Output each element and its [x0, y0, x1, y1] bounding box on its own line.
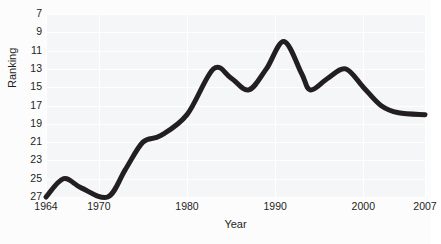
x-axis-title: Year [46, 218, 425, 230]
x-axis-tick-label: 1970 [69, 200, 129, 212]
y-axis-tick-labels: 79111315171921232527 [0, 14, 42, 197]
y-axis-tick-label: 23 [2, 154, 42, 165]
x-axis-tick-label: 1964 [16, 200, 76, 212]
y-axis-title: Ranking [6, 48, 18, 88]
gridline-vertical [425, 14, 426, 197]
y-axis-tick-label: 9 [2, 26, 42, 37]
y-axis-tick-label: 21 [2, 136, 42, 147]
series-ranking-path [46, 41, 425, 197]
y-axis-tick-label: 7 [2, 8, 42, 19]
x-axis-tick-label: 1980 [157, 200, 217, 212]
x-axis-tick-label: 2000 [333, 200, 393, 212]
x-axis-tick-label: 2007 [395, 200, 441, 212]
y-axis-tick-label: 17 [2, 100, 42, 111]
y-axis-tick-label: 19 [2, 118, 42, 129]
x-axis-tick-label: 1990 [245, 200, 305, 212]
x-axis-tick-labels: 196419701980199020002007 [46, 200, 425, 214]
plot-area [46, 14, 425, 197]
y-axis-tick-label: 25 [2, 173, 42, 184]
series-ranking-line [46, 14, 425, 197]
